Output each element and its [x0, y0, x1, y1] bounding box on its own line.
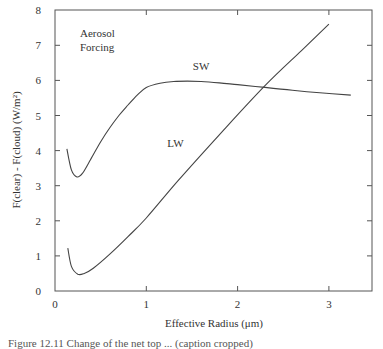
y-tick-label: 3: [36, 180, 42, 192]
x-axis: 0123: [52, 10, 332, 310]
y-axis-title: F(clear) - F(cloud) (W/m²): [10, 91, 23, 209]
y-tick-label: 8: [36, 4, 42, 16]
y-tick-label: 1: [36, 250, 42, 262]
x-tick-label: 1: [144, 298, 150, 310]
annotation-aerosol: Aerosol: [80, 27, 115, 39]
y-tick-label: 4: [36, 145, 42, 157]
series-label-sw: SW: [193, 60, 210, 72]
y-tick-label: 5: [36, 110, 42, 122]
x-tick-label: 3: [326, 298, 332, 310]
y-tick-label: 7: [36, 39, 42, 51]
figure-caption: Figure 12.11 Change of the net top ... (…: [8, 337, 253, 349]
annotation-forcing: Forcing: [80, 41, 115, 53]
series-label-lw: LW: [167, 137, 184, 149]
x-tick-label: 0: [52, 298, 58, 310]
series-sw-line: [67, 81, 351, 177]
y-tick-label: 0: [36, 285, 42, 297]
y-tick-label: 2: [36, 215, 42, 227]
y-tick-label: 6: [36, 74, 42, 86]
series-lines: SWLW: [67, 24, 351, 275]
x-axis-title: Effective Radius (μm): [165, 317, 263, 330]
x-tick-label: 2: [235, 298, 241, 310]
